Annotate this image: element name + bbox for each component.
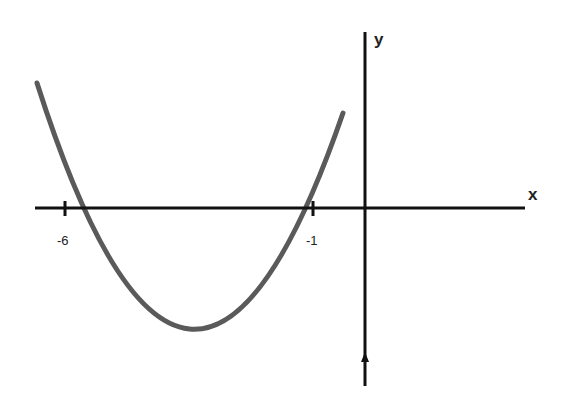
tick-label-minus-6: -6 [57,233,69,248]
parabola-curve [37,83,343,329]
y-axis-label: y [374,30,384,49]
graph-canvas: -6 -1 y x [0,0,561,396]
y-axis-arrow-icon [361,352,369,362]
tick-label-minus-1: -1 [306,233,318,248]
x-axis-label: x [528,185,538,204]
